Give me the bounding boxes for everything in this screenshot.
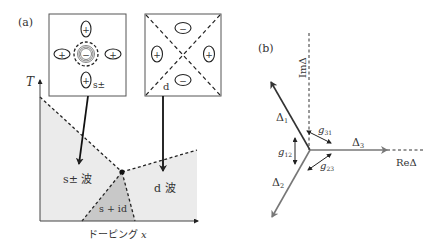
d-lobe-top: −	[179, 24, 187, 34]
center-sign: −	[82, 50, 90, 60]
figure: (a) T ドーピングx s± 波 d 波 s + id +	[0, 0, 443, 247]
t-axis-label: T	[26, 75, 35, 89]
delta-1-label: Δ1	[276, 111, 288, 125]
lobe-bottom: +	[82, 76, 90, 86]
d-lobe-right: +	[205, 50, 213, 60]
panel-a: (a) T ドーピングx s± 波 d 波 s + id +	[18, 14, 221, 240]
inset-s-pm-label: s±	[93, 80, 105, 90]
inset-d-label: d	[163, 81, 170, 92]
d-lobe-left: +	[153, 50, 161, 60]
multicritical-point	[119, 169, 124, 174]
delta-3-label: Δ3	[352, 136, 364, 150]
lobe-right: +	[109, 50, 117, 60]
g23-label: g23	[320, 160, 334, 172]
g12-label: g12	[278, 146, 292, 158]
lobe-left: +	[58, 50, 66, 60]
im-axis-label: ImΔ	[297, 57, 308, 78]
region-d-label: d 波	[154, 182, 176, 195]
delta-2-label: Δ2	[272, 176, 284, 190]
inset-d: − − + + d	[145, 14, 221, 96]
region-s-id-label: s + id	[99, 203, 127, 214]
d-lobe-bottom: −	[179, 76, 187, 86]
re-axis-label: ReΔ	[396, 157, 417, 168]
panel-b-label: (b)	[258, 42, 274, 55]
region-s-pm-label: s± 波	[63, 173, 92, 186]
x-axis-label: ドーピングx	[88, 228, 147, 240]
panel-a-label: (a)	[18, 16, 33, 29]
inset-s-pm: + + + + − s±	[49, 14, 126, 96]
g31-label: g31	[318, 124, 332, 136]
lobe-top: +	[82, 25, 90, 35]
panel-b: (b) ImΔ ReΔ Δ1 Δ2 Δ3 g31 g12 g23	[258, 33, 423, 217]
